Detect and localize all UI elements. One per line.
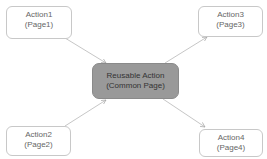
node-action4-title: Action4 xyxy=(218,133,245,143)
node-reusable-subtitle: (Common Page) xyxy=(106,81,165,91)
edge-reusable-to-action3 xyxy=(165,37,207,63)
node-action2-title: Action2 xyxy=(25,130,52,140)
node-action3-title: Action3 xyxy=(217,10,244,20)
edge-action1-to-reusable xyxy=(65,38,106,63)
node-action1-title: Action1 xyxy=(26,10,53,20)
node-action3-subtitle: (Page3) xyxy=(216,20,244,30)
node-action3: Action3 (Page3) xyxy=(198,6,263,37)
node-action4-subtitle: (Page4) xyxy=(217,143,245,153)
node-action1: Action1 (Page1) xyxy=(6,6,72,39)
node-action4: Action4 (Page4) xyxy=(199,129,263,157)
node-reusable-title: Reusable Action xyxy=(107,71,165,81)
edge-action2-to-reusable xyxy=(65,100,106,126)
node-action1-subtitle: (Page1) xyxy=(25,20,53,30)
node-action2-subtitle: (Page2) xyxy=(24,140,52,150)
node-action2: Action2 (Page2) xyxy=(6,126,71,156)
node-reusable-action: Reusable Action (Common Page) xyxy=(92,63,179,99)
edge-reusable-to-action4 xyxy=(163,99,205,127)
